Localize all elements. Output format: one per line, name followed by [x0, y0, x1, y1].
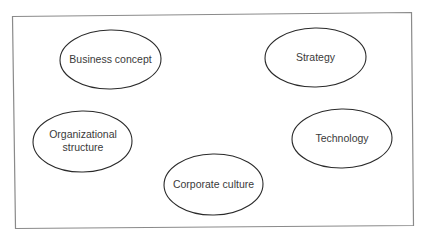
node-business-concept: Business concept: [59, 29, 161, 90]
node-label-line-2: structure: [63, 141, 104, 153]
node-technology: Technology: [291, 108, 392, 169]
node-label: Strategy: [296, 51, 336, 63]
node-label: Business concept: [69, 53, 151, 65]
node-label: Technology: [315, 132, 369, 144]
diagram-canvas: Business concept Strategy Organizational…: [0, 0, 425, 239]
node-label: Corporate culture: [173, 178, 254, 190]
node-corporate-culture: Corporate culture: [163, 153, 263, 216]
node-label-line-1: Organizational: [49, 128, 117, 140]
node-organizational-structure: Organizational structure: [32, 110, 132, 173]
node-strategy: Strategy: [264, 27, 366, 88]
